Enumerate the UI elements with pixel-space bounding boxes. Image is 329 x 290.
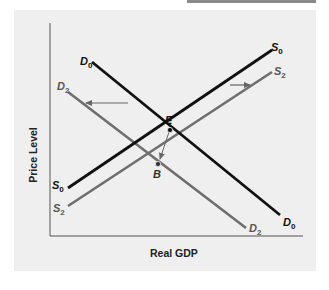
label-s0-top: S0 [271, 41, 283, 56]
ad-as-diagram: D0 D0 S0 S0 D2 D2 S2 S2 E B Real GDP Pri… [0, 0, 329, 290]
demand-curve-d2 [68, 92, 246, 228]
point-e-marker [167, 127, 172, 132]
point-b-marker [155, 161, 160, 166]
x-axis-label: Real GDP [150, 247, 198, 259]
y-axis-label: Price Level [27, 127, 39, 183]
label-s0-bottom: S0 [52, 179, 64, 194]
label-d2-bottom: D2 [249, 222, 262, 237]
label-d2-top: D2 [57, 80, 70, 95]
label-point-e: E [165, 114, 173, 126]
supply-curve-s2 [68, 72, 272, 206]
label-s2-bottom: S2 [53, 202, 65, 217]
label-d0-top: D0 [80, 55, 93, 70]
label-d0-bottom: D0 [283, 216, 296, 231]
label-s2-top: S2 [274, 65, 286, 80]
label-point-b: B [153, 168, 161, 180]
